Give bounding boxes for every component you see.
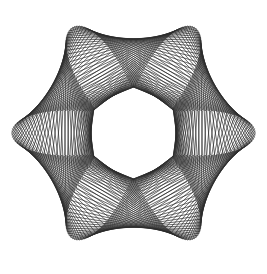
string-art-figure (0, 0, 267, 274)
pattern-polyline (12, 26, 256, 240)
figure-canvas (0, 0, 267, 274)
